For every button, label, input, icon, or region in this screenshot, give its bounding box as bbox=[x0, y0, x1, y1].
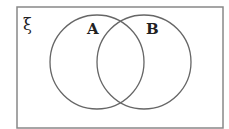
universal-set-rectangle bbox=[17, 7, 223, 128]
set-b-label: B bbox=[146, 20, 159, 38]
universal-set-symbol: ξ bbox=[23, 15, 32, 34]
set-a-label: A bbox=[86, 20, 99, 38]
venn-diagram: ξ A B bbox=[0, 0, 229, 129]
